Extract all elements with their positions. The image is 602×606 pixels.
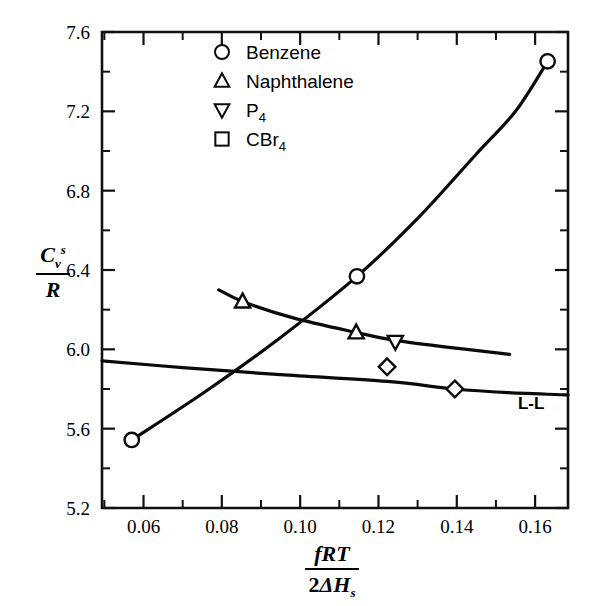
y-axis-denominator: R — [36, 277, 70, 302]
chart-annotations: L-L — [518, 394, 544, 413]
series-curve-l-l — [102, 361, 568, 395]
legend-label: Benzene — [246, 42, 321, 63]
y-axis-ticks — [102, 32, 568, 508]
y-axis-numerator: Cvs — [36, 243, 70, 272]
x-axis-fraction-bar — [305, 568, 360, 570]
series-curve-benzene — [132, 61, 548, 440]
legend-label-subscript: 4 — [259, 110, 266, 125]
legend-marker-benzene — [215, 45, 229, 59]
annotation-label: L-L — [518, 394, 544, 413]
x-tick-label: 0.10 — [284, 516, 317, 537]
x-axis-fraction: fRT 2ΔHs — [305, 542, 360, 600]
data-curves — [102, 61, 568, 440]
x-tick-label: 0.14 — [440, 516, 474, 537]
legend-marker-naphthalene — [215, 73, 230, 86]
legend-label: P4 — [246, 100, 266, 125]
x-axis-title: fRT 2ΔHs — [272, 542, 392, 600]
legend-label-subscript: 4 — [279, 139, 286, 154]
legend-label: CBr4 — [246, 129, 286, 154]
x-tick-label: 0.12 — [362, 516, 395, 537]
data-point-cbr4 — [379, 359, 396, 376]
y-axis-fraction: Cvs R — [36, 243, 70, 302]
y-tick-label: 5.6 — [66, 419, 90, 440]
x-axis-denominator: 2ΔHs — [305, 572, 360, 600]
y-tick-label: 6.0 — [66, 339, 90, 360]
y-tick-label: 6.8 — [66, 181, 90, 202]
x-axis-tick-labels: 0.060.080.100.120.140.16 — [127, 516, 552, 537]
axis-frame — [102, 32, 568, 508]
data-markers — [125, 54, 555, 447]
y-tick-label: 5.2 — [66, 498, 90, 519]
chart-plot-area: 0.060.080.100.120.140.16 5.25.66.06.46.8… — [0, 0, 602, 606]
data-point-benzene — [350, 269, 364, 283]
chart-legend: BenzeneNaphthaleneP4CBr4 — [215, 42, 354, 154]
x-tick-label: 0.06 — [127, 516, 160, 537]
y-axis-fraction-bar — [36, 273, 70, 275]
legend-marker-cbr — [215, 132, 228, 145]
data-point-benzene — [540, 54, 554, 68]
y-tick-label: 7.6 — [66, 22, 90, 43]
chart-figure: 0.060.080.100.120.140.16 5.25.66.06.46.8… — [0, 0, 602, 606]
x-axis-ticks — [104, 32, 535, 508]
data-point-benzene — [125, 433, 139, 447]
legend-marker-p — [215, 104, 230, 117]
x-tick-label: 0.08 — [205, 516, 238, 537]
y-axis-title: Cvs R — [16, 243, 90, 302]
series-curve-naphthalene — [219, 290, 510, 354]
data-point-cbr4 — [447, 381, 464, 398]
legend-label: Naphthalene — [246, 71, 354, 92]
plot-frame — [102, 32, 568, 508]
y-tick-label: 7.2 — [66, 101, 90, 122]
x-axis-numerator: fRT — [305, 542, 360, 567]
x-tick-label: 0.16 — [518, 516, 551, 537]
